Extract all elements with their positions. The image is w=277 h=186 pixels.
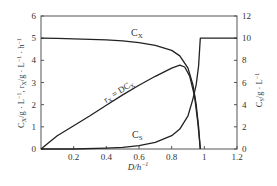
x-tick-label: 1	[202, 152, 207, 162]
label-cs: CS	[132, 129, 143, 142]
series-rx-line	[41, 65, 200, 149]
label-cx: CX	[131, 27, 143, 40]
x-tick-label: 1.2	[231, 152, 242, 162]
y-left-tick-label: 2	[32, 100, 37, 110]
label-rx: rX = DCX	[102, 78, 137, 106]
y-left-tick-label: 0	[32, 144, 37, 154]
y-left-tick-label: 3	[32, 78, 37, 88]
y-left-tick-label: 4	[32, 55, 37, 65]
y-right-tick-label: 10	[242, 33, 252, 43]
y-left-tick-label: 1	[32, 122, 37, 132]
y-right-tick-label: 4	[242, 100, 247, 110]
x-tick-label: 0.2	[68, 152, 79, 162]
y-left-tick-label: 5	[32, 33, 37, 43]
y-right-tick-label: 2	[242, 122, 247, 132]
chart-svg: 0.20.40.60.811.20123456024681012 CX CS r…	[0, 0, 277, 186]
y-right-tick-label: 12	[242, 11, 251, 21]
chart-container: 0.20.40.60.811.20123456024681012 CX CS r…	[0, 0, 277, 186]
y-right-tick-label: 0	[242, 144, 247, 154]
y-right-tick-label: 6	[242, 78, 247, 88]
y-axis-right-title: CS/g · L−1	[254, 73, 265, 107]
x-tick-label: 0.8	[166, 152, 178, 162]
y-axis-left-title: CX/g · L−1, rX/g · L−1 · h−1	[16, 38, 27, 128]
y-right-tick-label: 8	[242, 55, 247, 65]
x-tick-label: 0.4	[101, 152, 113, 162]
series-cs-line	[41, 38, 237, 149]
y-left-tick-label: 6	[32, 11, 37, 21]
data-curves	[41, 38, 237, 149]
x-axis-title: D/h−1	[127, 161, 149, 172]
